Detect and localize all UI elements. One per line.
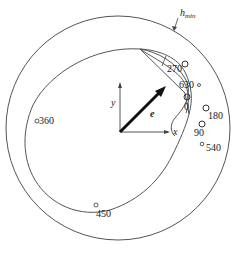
- svg-text:630: 630: [179, 79, 194, 90]
- svg-text:540: 540: [206, 142, 221, 153]
- svg-text:450: 450: [96, 208, 111, 219]
- point-630: 630: [179, 79, 201, 90]
- svg-text:360: 360: [39, 115, 54, 126]
- vector-e-label: e: [150, 108, 155, 119]
- point-360: 360: [35, 115, 54, 126]
- svg-text:0: 0: [184, 101, 189, 112]
- point-180: 180: [203, 105, 223, 121]
- svg-text:180: 180: [208, 110, 223, 121]
- x-axis-label: x: [172, 126, 178, 137]
- vector-e: [120, 90, 162, 132]
- point-0: 0: [184, 94, 190, 112]
- svg-text:270: 270: [167, 63, 182, 74]
- point-90: 90: [194, 121, 205, 138]
- hmin-label: hmin: [180, 7, 196, 20]
- point-450: 450: [94, 203, 111, 219]
- y-axis-label: y: [110, 97, 116, 108]
- orbit-diagram: hmin y x e 270 630 0 180 90 540 360 450: [0, 0, 237, 255]
- point-540: 540: [200, 142, 221, 153]
- svg-text:90: 90: [194, 127, 204, 138]
- y-axis-arrowhead: [118, 82, 122, 88]
- x-axis-arrowhead: [164, 130, 170, 134]
